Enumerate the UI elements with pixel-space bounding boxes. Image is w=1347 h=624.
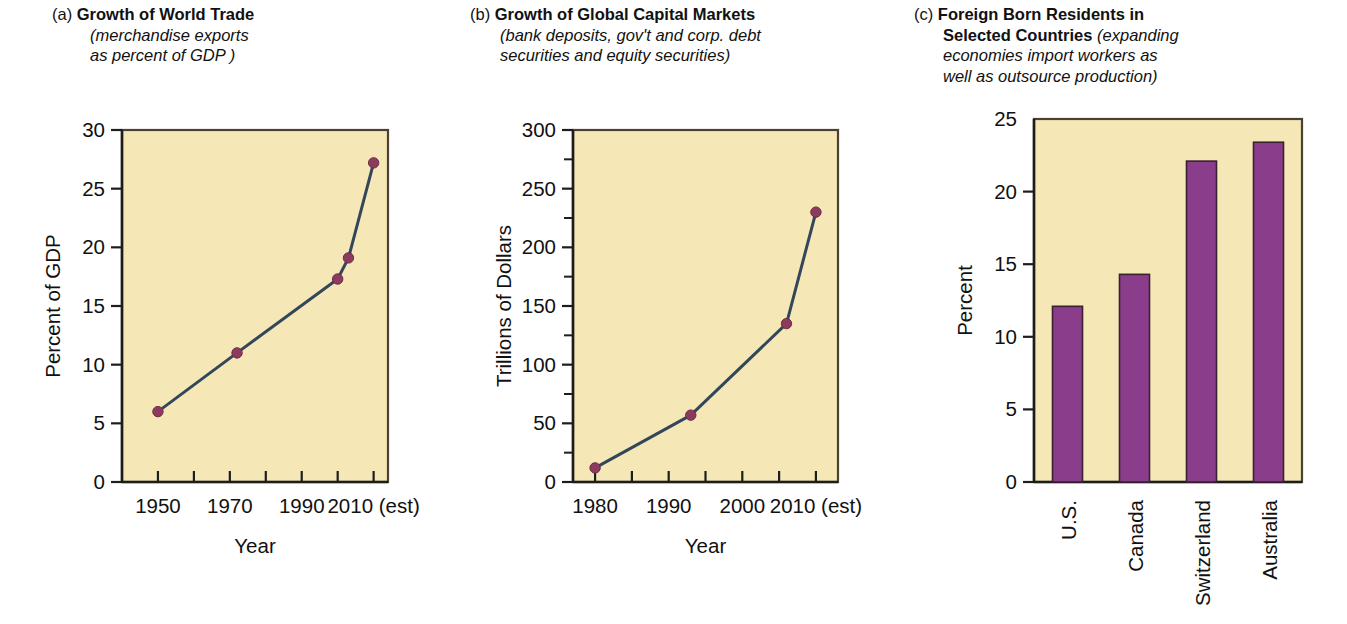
y-axis-tick-label: 5 [94,411,105,434]
bar [1120,274,1150,482]
data-point [590,463,600,473]
y-axis-tick-label: 10 [994,325,1017,348]
y-axis-title: Percent [953,265,976,336]
data-point [686,410,696,420]
y-axis-tick-label: 5 [1006,397,1017,420]
y-axis-title: Trillions of Dollars [492,225,515,387]
chart-a-canvas: 0510152025301950197019902010 (est)YearPe… [0,0,450,624]
x-axis-tick-label: 1970 [207,494,253,517]
panel-growth-of-world-trade: (a) Growth of World Trade (merchandise e… [0,0,450,624]
y-axis-tick-label: 0 [94,470,105,493]
x-axis-tick-label: 1950 [135,494,181,517]
y-axis-tick-label: 100 [522,353,556,376]
y-axis-tick-label: 20 [994,180,1017,203]
x-axis-tick-label: 2010 (est) [770,494,862,517]
y-axis-tick-label: 150 [522,294,556,317]
y-axis-tick-label: 25 [82,177,105,200]
plot-area [573,130,838,482]
x-axis-tick-label: 2000 [720,494,766,517]
data-point [343,253,353,263]
chart-b-canvas: 0501001502002503001980199020002010 (est)… [450,0,902,624]
data-point [781,318,791,328]
data-point [811,207,821,217]
data-point [153,406,163,416]
y-axis-tick-label: 15 [82,294,105,317]
panel-growth-of-global-capital-markets: (b) Growth of Global Capital Markets (ba… [450,0,902,624]
data-point [368,158,378,168]
x-axis-category-label: Canada [1124,499,1147,571]
y-axis-tick-label: 250 [522,177,556,200]
y-axis-tick-label: 10 [82,353,105,376]
x-axis-tick-label: 1990 [279,494,325,517]
y-axis-tick-label: 300 [522,118,556,141]
y-axis-tick-label: 20 [82,235,105,258]
y-axis-tick-label: 200 [522,235,556,258]
x-axis-title: Year [685,534,727,557]
plot-area [122,130,388,482]
data-point [232,348,242,358]
bar [1187,161,1217,482]
x-axis-tick-label: 1990 [646,494,692,517]
y-axis-title: Percent of GDP [41,234,64,378]
panel-foreign-born-residents: (c) Foreign Born Residents in Selected C… [902,0,1347,624]
chart-c-canvas: 0510152025U.S.CanadaSwitzerlandAustralia… [902,0,1347,624]
data-point [332,274,342,284]
x-axis-tick-label: 2010 (est) [327,494,419,517]
y-axis-tick-label: 0 [545,470,556,493]
x-axis-category-label: Australia [1258,499,1281,579]
bar [1053,306,1083,482]
y-axis-tick-label: 50 [533,411,556,434]
x-axis-title: Year [234,534,276,557]
x-axis-category-label: U.S. [1057,500,1080,540]
x-axis-category-label: Switzerland [1191,500,1214,606]
bar [1254,142,1284,482]
x-axis-tick-label: 1980 [572,494,618,517]
y-axis-tick-label: 25 [994,107,1017,130]
y-axis-tick-label: 30 [82,118,105,141]
y-axis-tick-label: 15 [994,252,1017,275]
y-axis-tick-label: 0 [1006,470,1017,493]
